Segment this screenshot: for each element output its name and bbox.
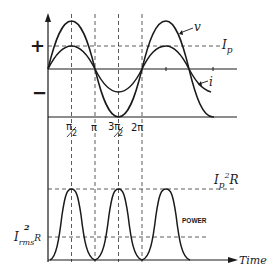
time-axis-label: Time <box>239 254 267 267</box>
voltage-label: v <box>194 20 201 34</box>
current-label: i <box>209 75 213 89</box>
rms-power-superscript: 2 <box>23 222 30 232</box>
axis-arrow-right-icon <box>228 257 238 263</box>
vertical-axis <box>45 13 51 262</box>
minus-sign: − <box>32 82 47 103</box>
svg-text:2: 2 <box>118 129 123 138</box>
rms-power-label: IrmsR <box>13 230 41 247</box>
peak-power-label: Ip2R <box>213 171 239 190</box>
phase-tick-labels: π 2 π 3π 2 2π <box>66 121 143 138</box>
power-curve-label: POWER <box>182 217 207 224</box>
svg-text:π: π <box>91 122 97 133</box>
axis-arrow-up-icon <box>45 13 51 22</box>
power-waveform-diagram: + − v i Ip π 2 π 3π 2 2π Ip2R IrmsR 2 PO… <box>0 0 276 279</box>
svg-text:2π: 2π <box>131 122 143 133</box>
power-curve <box>50 189 190 260</box>
plus-sign: + <box>30 35 45 56</box>
peak-current-label: Ip <box>221 38 233 55</box>
